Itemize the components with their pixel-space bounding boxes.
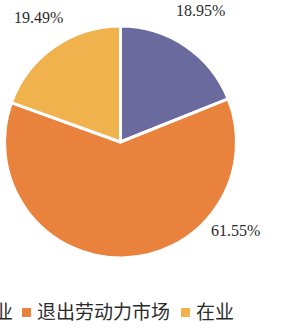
pie-slices <box>5 26 237 258</box>
legend-swatch-icon-1 <box>22 308 31 317</box>
data-label-gold: 19.49% <box>14 9 63 27</box>
legend-item-0[interactable]: 业 <box>0 301 13 323</box>
pie-chart-figure: 19.49% 18.95% 61.55% 业 退出劳动力市场 在业 <box>0 0 281 328</box>
data-label-orange: 61.55% <box>211 222 260 240</box>
legend-label-1: 退出劳动力市场 <box>37 301 170 323</box>
legend-swatch-icon-2 <box>181 308 190 317</box>
legend-item-1[interactable]: 退出劳动力市场 <box>22 301 170 323</box>
legend-label-2: 在业 <box>196 301 234 323</box>
pie-plot-area: 19.49% 18.95% 61.55% <box>0 0 281 272</box>
legend-item-2[interactable]: 在业 <box>181 301 234 323</box>
chart-legend: 业 退出劳动力市场 在业 <box>0 296 281 328</box>
data-label-purple: 18.95% <box>176 2 225 20</box>
legend-label-0: 业 <box>0 301 13 323</box>
